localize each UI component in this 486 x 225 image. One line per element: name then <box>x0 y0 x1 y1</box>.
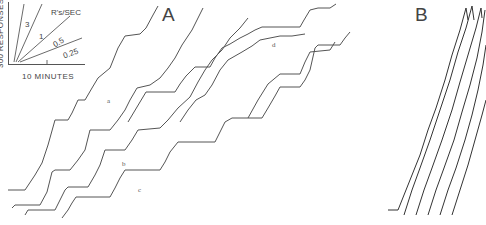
cumulative-record-figure: 300 RESPONSES R's/SEC 3 1 0.5 0.25 10 MI… <box>0 0 486 225</box>
record-b-2 <box>404 6 474 215</box>
marker-d: d <box>272 41 276 49</box>
panel-a-records <box>8 4 350 218</box>
record-a-6 <box>248 42 335 118</box>
record-a-4 <box>62 32 350 218</box>
record-a-2 <box>12 8 203 208</box>
record-a-3 <box>25 18 248 215</box>
record-b-6 <box>452 100 486 215</box>
marker-a: a <box>107 97 111 105</box>
records-plot: a b c d <box>0 0 486 225</box>
marker-b: b <box>122 160 126 168</box>
record-a-7 <box>180 34 305 122</box>
marker-c: c <box>138 186 141 194</box>
record-b-3 <box>416 8 482 215</box>
legend-rate-lines <box>14 4 82 64</box>
record-a-1 <box>8 6 158 190</box>
panel-b-records <box>388 6 486 215</box>
